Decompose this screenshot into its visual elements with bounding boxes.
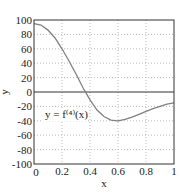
- y-tick-label: -40: [17, 115, 32, 127]
- x-tick-label: 0.6: [111, 165, 125, 177]
- x-tick-label: 0: [33, 166, 39, 178]
- y-axis-label: y: [0, 89, 10, 95]
- x-tick-label: 0.8: [139, 165, 153, 177]
- y-tick-label: -100: [12, 158, 33, 170]
- y-tick-label: 20: [21, 72, 33, 84]
- y-tick-label: -60: [17, 129, 32, 141]
- y-tick-label: 80: [21, 28, 33, 40]
- x-tick-label: 0.2: [55, 165, 69, 177]
- chart: 00.20.40.60.81 100806040200-20-40-60-80-…: [0, 0, 181, 195]
- y-tick-label: -20: [17, 100, 32, 112]
- x-tick-label: 0.4: [83, 165, 97, 177]
- curve-annotation: y = f⁽⁴⁾(x): [45, 108, 88, 121]
- y-tick-label: 0: [27, 86, 33, 98]
- y-tick-labels: 100806040200-20-40-60-80-100: [12, 14, 33, 170]
- y-tick-label: 100: [16, 14, 33, 26]
- y-tick-label: 60: [21, 43, 33, 55]
- x-axis-label: x: [101, 177, 107, 189]
- y-tick-label: 40: [21, 57, 33, 69]
- x-tick-label: 1: [171, 165, 177, 177]
- y-tick-label: -80: [17, 144, 32, 156]
